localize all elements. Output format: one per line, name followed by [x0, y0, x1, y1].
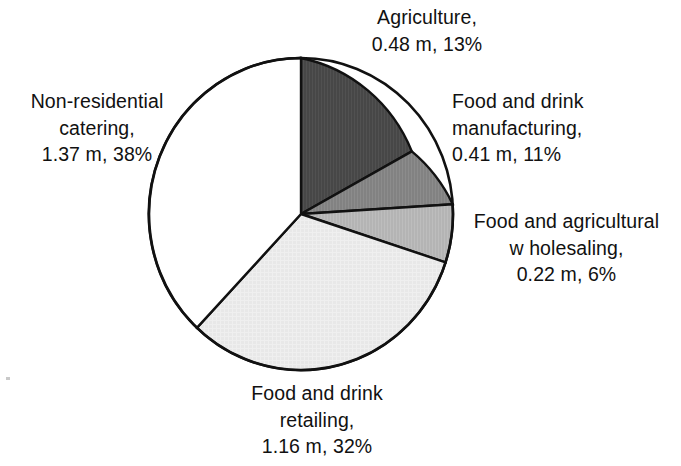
scan-artifact-speck: [6, 377, 10, 380]
pie-label-non-residential-catering: Non-residential catering, 1.37 m, 38%: [2, 88, 192, 168]
pie-chart-figure: Agriculture, 0.48 m, 13% Food and drink …: [0, 0, 681, 466]
pie-label-agriculture: Agriculture, 0.48 m, 13%: [302, 4, 552, 57]
pie-label-food-and-drink-manufacturing: Food and drink manufacturing, 0.41 m, 11…: [452, 88, 680, 168]
pie-label-food-and-agricultural-wholesaling: Food and agricultural w holesaling, 0.22…: [452, 208, 681, 288]
pie-label-food-and-drink-retailing: Food and drink retailing, 1.16 m, 32%: [192, 380, 442, 460]
